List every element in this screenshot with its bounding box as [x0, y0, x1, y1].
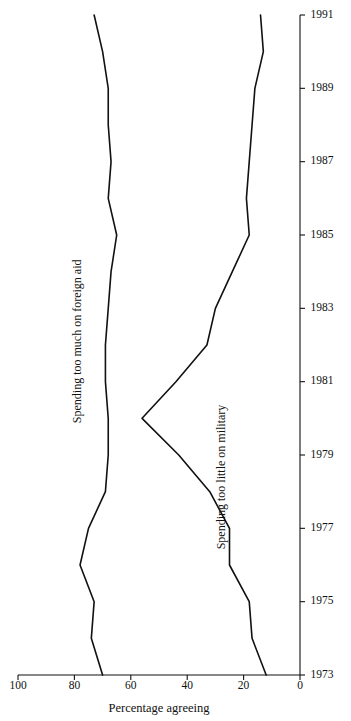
y-axis-title-text: Percentage agreeing [109, 701, 211, 715]
x-tick-label: 1981 [311, 374, 334, 386]
y-axis-title: Percentage agreeing [109, 701, 211, 715]
y-tick-labels: 020406080100 [9, 679, 303, 691]
data-series [80, 15, 266, 675]
tick-marks [18, 15, 305, 680]
line-chart-svg: 1973197519771979198119831985198719891991… [0, 0, 351, 721]
chart-canvas: 1973197519771979198119831985198719891991… [0, 0, 351, 721]
y-tick-label: 40 [181, 679, 193, 691]
x-tick-label: 1985 [311, 228, 334, 240]
series-label-1: Spending too much on foreign aid [70, 260, 84, 424]
series-line-1 [80, 15, 117, 675]
x-tick-label: 1979 [311, 448, 334, 460]
x-tick-label: 1987 [311, 154, 334, 166]
y-tick-label: 100 [9, 679, 27, 691]
y-tick-label: 80 [69, 679, 81, 691]
x-tick-label: 1991 [311, 8, 334, 20]
x-tick-label: 1989 [311, 81, 334, 93]
x-tick-labels: 1973197519771979198119831985198719891991 [311, 8, 334, 680]
y-tick-label: 60 [125, 679, 137, 691]
x-tick-label: 1973 [311, 668, 334, 680]
series-label-2: Spending too little on military [214, 405, 228, 550]
y-tick-label: 20 [238, 679, 250, 691]
x-tick-label: 1977 [311, 521, 334, 533]
series-line-2 [142, 15, 266, 675]
x-tick-label: 1975 [311, 594, 334, 606]
x-tick-label: 1983 [311, 301, 334, 313]
series-annotations: Spending too much on foreign aidSpending… [70, 260, 228, 550]
axes [18, 15, 300, 675]
chart-figure: 1973197519771979198119831985198719891991… [0, 0, 351, 721]
y-tick-label: 0 [297, 679, 303, 691]
